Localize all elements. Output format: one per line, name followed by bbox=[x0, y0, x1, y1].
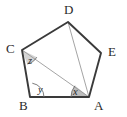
angle-label-x: x bbox=[72, 86, 78, 97]
angle-arcs bbox=[27, 57, 75, 97]
vertex-label-C: C bbox=[6, 41, 15, 56]
pentagon-diagram-svg: A B C D E x y z bbox=[0, 0, 127, 117]
geometry-figure: A B C D E x y z bbox=[0, 0, 127, 117]
vertex-label-D: D bbox=[64, 2, 73, 17]
angle-label-y: y bbox=[37, 84, 43, 95]
vertex-label-B: B bbox=[19, 98, 28, 113]
angle-label-z: z bbox=[27, 55, 32, 66]
vertex-label-E: E bbox=[108, 44, 116, 59]
diagonal-DA bbox=[68, 22, 89, 97]
vertex-label-A: A bbox=[94, 98, 104, 113]
